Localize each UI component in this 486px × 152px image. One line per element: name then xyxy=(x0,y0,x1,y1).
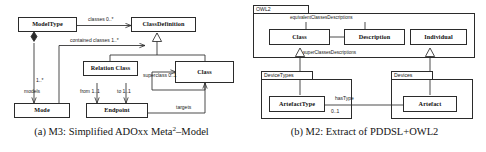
edge-label-superclass: superclass 0..1 xyxy=(143,73,177,78)
class-box-mode[interactable]: Mode xyxy=(14,103,70,118)
class-name: Description xyxy=(359,34,391,40)
class-box-classdefinition[interactable]: ClassDefinition xyxy=(131,17,196,32)
edge-label-hastype-multiplicity: 0..1 xyxy=(331,109,339,114)
figure-root: Endpoint --> Endpoint --> Class --> Mode… xyxy=(0,0,486,152)
package-name: DeviceTypes xyxy=(264,73,294,78)
edge-label-equivalentclassesdescriptions: equivalentClassesDescriptions xyxy=(290,16,353,21)
panel-b-diagram: OWL2 DeviceTypes Devices Class Descripti… xyxy=(243,0,486,124)
edge-label-contained-classes: contained classes 1..* xyxy=(70,38,119,43)
caption-text: M3: Simplified ADOxx Meta xyxy=(49,126,173,137)
panel-b-m2-model: OWL2 DeviceTypes Devices Class Descripti… xyxy=(243,0,486,152)
edge-label-targets: targets xyxy=(176,105,191,110)
edge-label-from: from 1..1 xyxy=(80,89,100,94)
package-name: Devices xyxy=(394,73,412,78)
caption-prefix: (b) xyxy=(291,126,303,137)
panel-b-caption: (b) M2: Extract of PDDSL+OWL2 xyxy=(243,126,486,138)
class-box-modeltype[interactable]: ModelType xyxy=(18,17,77,32)
class-name: Endpoint xyxy=(104,107,130,113)
class-box-endpoint[interactable]: Endpoint xyxy=(86,103,148,118)
class-name: Class xyxy=(292,34,307,40)
package-name: OWL2 xyxy=(256,7,271,12)
class-name: Relation Class xyxy=(91,65,130,71)
edge-label-to: to 1..1 xyxy=(117,89,131,94)
panel-a-m3-metamodel: Endpoint --> Endpoint --> Class --> Mode… xyxy=(0,0,243,152)
edge-label-superclassesdescriptions: superClassesDescriptions xyxy=(303,51,356,56)
class-box-owl2-class[interactable]: Class xyxy=(269,29,330,45)
class-name: ArtefactType xyxy=(279,101,315,107)
caption-text: M2: Extract of PDDSL+OWL2 xyxy=(306,126,439,137)
class-box-class[interactable]: Class xyxy=(175,61,234,83)
caption-suffix: –Model xyxy=(176,126,209,137)
edge-label-models: models xyxy=(24,89,40,94)
class-name: Individual xyxy=(424,34,453,40)
class-box-artefacttype[interactable]: ArtefactType xyxy=(269,96,325,112)
class-name: Mode xyxy=(34,107,50,113)
class-box-description[interactable]: Description xyxy=(344,29,405,45)
edge-label-hastype: hasType xyxy=(335,96,354,101)
class-box-individual[interactable]: Individual xyxy=(410,29,467,45)
class-box-relation-class[interactable]: Relation Class xyxy=(83,61,138,76)
class-name: ModelType xyxy=(32,21,63,27)
edge-label-classes: classes 0..* xyxy=(88,17,114,22)
panel-a-diagram: Endpoint --> Endpoint --> Class --> Mode… xyxy=(0,0,243,124)
class-name: ClassDefinition xyxy=(142,21,184,27)
edge-label-models-multiplicity: 1..* xyxy=(36,78,44,83)
class-name: Artefact xyxy=(419,101,442,107)
class-box-artefact[interactable]: Artefact xyxy=(403,96,457,112)
caption-prefix: (a) xyxy=(34,126,46,137)
class-name: Class xyxy=(197,69,212,75)
panel-a-caption: (a) M3: Simplified ADOxx Meta2–Model xyxy=(0,126,243,138)
